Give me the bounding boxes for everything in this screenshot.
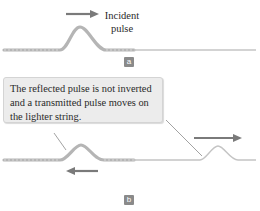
incident-pulse-label: Incident pulse: [101, 9, 143, 35]
incident-label-line2: pulse: [101, 22, 143, 35]
incident-label-line1: Incident: [101, 9, 143, 22]
caption-box: The reflected pulse is not inverted and …: [3, 77, 163, 123]
transmitted-arrow-icon: [194, 134, 242, 142]
panel-label-b: b: [124, 195, 134, 205]
heavy-string-b: [4, 145, 134, 160]
panel-label-a: a: [124, 57, 134, 67]
leader-line-reflected: [54, 133, 66, 150]
panel-b-diagram: [4, 120, 256, 175]
incident-arrow-icon: [66, 10, 99, 18]
light-string-b: [134, 146, 256, 160]
reflected-arrow-icon: [66, 167, 98, 175]
